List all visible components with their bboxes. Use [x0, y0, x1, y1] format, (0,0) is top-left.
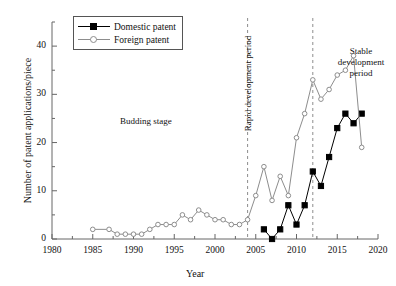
data-point — [188, 217, 193, 222]
data-point — [107, 227, 112, 232]
data-point — [148, 227, 153, 232]
x-tick-2000: 2000 — [198, 245, 232, 255]
data-point — [139, 232, 144, 237]
series-line-foreign-patent — [93, 56, 362, 234]
data-point — [311, 78, 316, 83]
open-circle-icon — [90, 36, 97, 43]
filled-square-icon — [90, 23, 97, 30]
data-point — [343, 111, 348, 116]
data-point — [270, 198, 275, 203]
data-point — [359, 111, 364, 116]
data-point — [115, 232, 120, 237]
data-point — [253, 193, 258, 198]
data-point — [180, 213, 185, 218]
data-point — [164, 222, 169, 227]
x-tick-2010: 2010 — [280, 245, 314, 255]
data-point — [278, 174, 283, 179]
y-tick-0: 0 — [24, 233, 46, 243]
data-point — [302, 111, 307, 116]
legend-key-domestic — [78, 20, 110, 33]
x-tick-1990: 1990 — [117, 245, 151, 255]
chart-canvas — [0, 0, 396, 286]
data-point — [237, 222, 242, 227]
y-tick-40: 40 — [24, 40, 46, 50]
y-tick-10: 10 — [24, 185, 46, 195]
legend-label-domestic: Domestic patent — [114, 22, 176, 32]
data-point — [310, 169, 315, 174]
legend-key-foreign — [78, 33, 110, 46]
data-point — [294, 222, 299, 227]
chart-legend: Domestic patent Foreign patent — [73, 16, 183, 50]
data-point — [245, 217, 250, 222]
data-point — [262, 164, 267, 169]
data-point — [229, 222, 234, 227]
annotation-rapid-development-period: Rapid development period — [243, 29, 254, 139]
data-point — [327, 87, 332, 92]
data-point — [335, 125, 340, 130]
data-point — [123, 232, 128, 237]
data-point — [90, 227, 95, 232]
data-point — [359, 145, 364, 150]
data-point — [269, 236, 274, 241]
x-tick-2020: 2020 — [361, 245, 395, 255]
data-point — [196, 208, 201, 213]
data-point — [221, 217, 226, 222]
x-tick-1985: 1985 — [76, 245, 110, 255]
y-tick-20: 20 — [24, 137, 46, 147]
annotation-budding-stage: Budding stage — [120, 116, 172, 127]
data-point — [261, 227, 266, 232]
data-point — [294, 135, 299, 140]
data-point — [286, 203, 291, 208]
y-tick-30: 30 — [24, 88, 46, 98]
legend-label-foreign: Foreign patent — [114, 35, 169, 45]
data-point — [302, 203, 307, 208]
data-series — [90, 53, 364, 241]
x-axis-title: Year — [186, 268, 204, 279]
x-tick-2015: 2015 — [320, 245, 354, 255]
data-point — [131, 232, 136, 237]
data-point — [318, 183, 323, 188]
data-point — [351, 121, 356, 126]
x-tick-2005: 2005 — [239, 245, 273, 255]
legend-item-foreign: Foreign patent — [78, 33, 176, 46]
x-tick-1995: 1995 — [157, 245, 191, 255]
data-point — [156, 222, 161, 227]
data-point — [319, 97, 324, 102]
x-tick-1980: 1980 — [35, 245, 69, 255]
data-point — [327, 154, 332, 159]
annotation-stable-development-period: Stable development period — [330, 46, 392, 79]
patent-applications-line-chart: Number of patent applications/piece Year… — [0, 0, 396, 286]
data-point — [286, 193, 291, 198]
data-point — [213, 217, 218, 222]
data-point — [205, 213, 210, 218]
data-point — [278, 227, 283, 232]
legend-item-domestic: Domestic patent — [78, 20, 176, 33]
data-point — [172, 222, 177, 227]
